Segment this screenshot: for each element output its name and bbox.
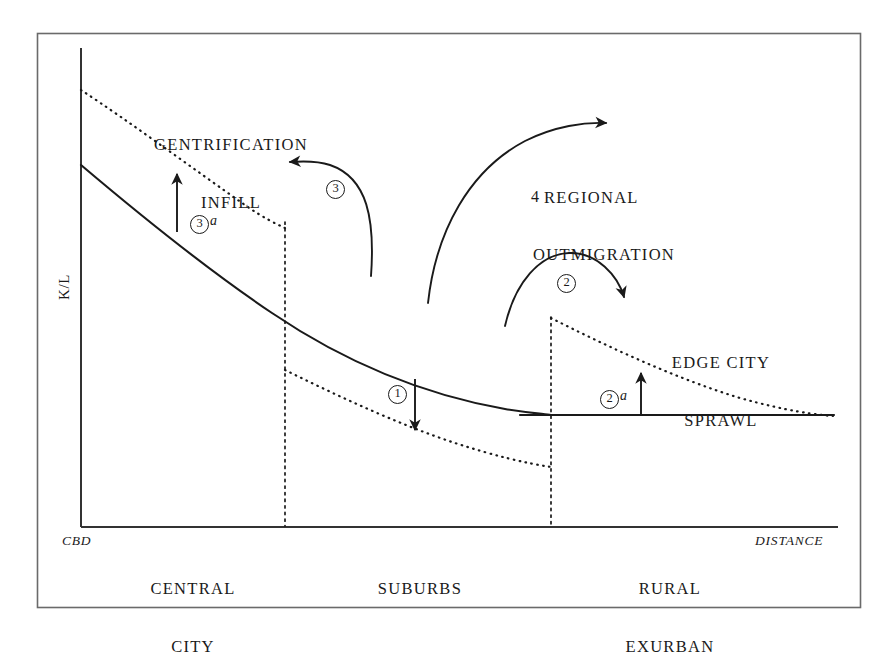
zone-label-central-city: CENTRAL CITY <box>118 540 268 656</box>
marker-2a: 2a <box>600 386 627 409</box>
x-axis-label: DISTANCE <box>755 533 823 549</box>
annotation-gentrification-line1: GENTRIFICATION <box>122 135 340 154</box>
zone-label-central-city-line1: CENTRAL <box>118 579 268 598</box>
zone-label-suburbs: SUBURBS <box>345 540 495 637</box>
annotation-regional-outmigration-line2: OUTMIGRATION <box>531 245 675 264</box>
annotation-gentrification-line2: INFILL <box>122 193 340 212</box>
marker-3: 3 <box>326 176 345 199</box>
annotation-edge-city-line2: SPRAWL <box>646 411 796 430</box>
marker-1-circle: 1 <box>388 385 407 404</box>
annotation-regional-outmigration-line1: REGIONAL <box>544 188 639 207</box>
zone-label-suburbs-line1: SUBURBS <box>345 579 495 598</box>
marker-2a-circle: 2 <box>600 390 619 409</box>
annotation-edge-city-sprawl: EDGE CITY SPRAWL <box>646 314 796 470</box>
marker-3-circle: 3 <box>326 180 345 199</box>
marker-3a-suffix: a <box>209 213 217 228</box>
marker-3a: 3a <box>190 211 217 234</box>
zone-label-rural-exurban-line2: EXURBAN <box>590 637 750 656</box>
annotation-edge-city-line1: EDGE CITY <box>646 353 796 372</box>
y-axis-label: K/L <box>56 274 74 300</box>
cbd-label: CBD <box>62 533 91 549</box>
marker-3a-circle: 3 <box>190 215 209 234</box>
marker-2: 2 <box>557 270 576 293</box>
zone-label-rural-exurban: RURAL EXURBAN <box>590 540 750 656</box>
suburban-decline-curve <box>285 370 551 467</box>
marker-2-circle: 2 <box>557 274 576 293</box>
annotation-regional-outmigration: 4 REGIONAL OUTMIGRATION <box>531 150 675 302</box>
zone-label-rural-exurban-line1: RURAL <box>590 579 750 598</box>
annotation-gentrification-infill: GENTRIFICATION INFILL <box>122 96 340 252</box>
zone-label-central-city-line2: CITY <box>118 637 268 656</box>
marker-2a-suffix: a <box>619 388 627 403</box>
marker-1: 1 <box>388 381 407 404</box>
marker-4-circle: 4 <box>531 188 539 207</box>
